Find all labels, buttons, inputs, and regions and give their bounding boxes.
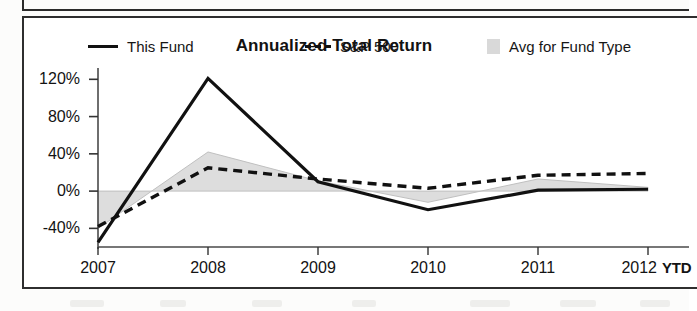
y-axis-tick-label: 40% [8,145,80,163]
scan-artifact [470,300,510,307]
x-axis-tick-label: 2012YTD [621,259,691,277]
x-axis-ytd-suffix: YTD [662,259,691,276]
x-axis-tick-label: 2011 [521,259,555,277]
series-line-this-fund [98,78,648,242]
x-axis-ticks [98,247,648,255]
y-axis-tick-label: 80% [8,108,80,126]
scan-artifact [352,300,376,307]
x-axis-tick-label: 2008 [190,259,226,277]
x-axis-tick-label: 2010 [410,259,446,277]
scan-artifact [252,300,282,307]
scan-artifact [160,300,186,307]
scan-artifact [70,300,104,307]
y-axis-tick-label: 120% [8,70,80,88]
y-axis-tick-label: 0% [8,182,80,200]
x-axis-tick-label: 2007 [80,259,116,277]
scan-artifact [640,300,670,307]
y-axis-tick-label: -40% [8,219,80,237]
x-axis-tick-label: 2009 [300,259,336,277]
scan-artifact [560,300,596,307]
y-axis-ticks [89,79,98,228]
